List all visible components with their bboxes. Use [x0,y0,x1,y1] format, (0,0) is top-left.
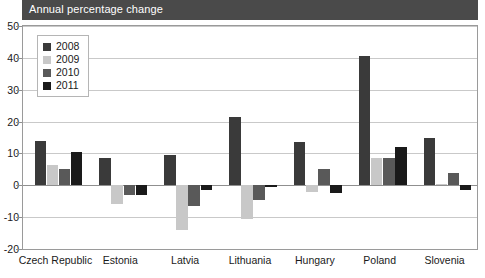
chart-title-bar: Annual percentage change [22,0,478,20]
bar [253,185,265,199]
bar [436,184,448,186]
bar [201,185,213,190]
legend-item: 2008 [43,40,79,53]
legend-swatch-icon [43,56,51,64]
legend-swatch-icon [43,82,51,90]
gridline-30 [23,90,477,91]
plot-area: 2008200920102011 [22,25,478,250]
bar [306,185,318,191]
bar [460,185,472,190]
gridline-20 [23,122,477,123]
legend-label: 2010 [56,66,79,79]
bar [395,147,407,185]
bar-chart: Annual percentage change 50403020100-10-… [0,0,485,278]
bar [124,185,136,195]
bar [318,169,330,185]
bar [59,169,71,185]
bar [371,158,383,185]
gridline--20 [23,249,477,250]
bar [383,158,395,185]
bar [241,185,253,218]
page-title: Annual percentage change [29,3,163,15]
bar [176,185,188,230]
legend-item: 2011 [43,79,79,92]
bar [294,142,306,185]
legend-item: 2010 [43,66,79,79]
bar [188,185,200,206]
bar [47,165,59,186]
bar [164,155,176,185]
gridline-40 [23,58,477,59]
legend-swatch-icon [43,43,51,51]
bar [359,56,371,185]
bar [448,173,460,186]
gridline-50 [23,26,477,27]
legend-label: 2009 [56,53,79,66]
gridline-10 [23,153,477,154]
legend-label: 2008 [56,40,79,53]
bar [99,158,111,185]
bar [111,185,123,204]
bar [330,185,342,193]
bar [229,117,241,185]
bar [71,152,83,185]
bar [265,185,277,187]
x-axis-label: Slovenia [406,255,483,267]
legend: 2008200920102011 [37,35,89,97]
legend-item: 2009 [43,53,79,66]
legend-swatch-icon [43,69,51,77]
legend-label: 2011 [56,79,79,92]
bar [136,185,148,195]
bar [35,141,47,186]
bar [424,138,436,186]
